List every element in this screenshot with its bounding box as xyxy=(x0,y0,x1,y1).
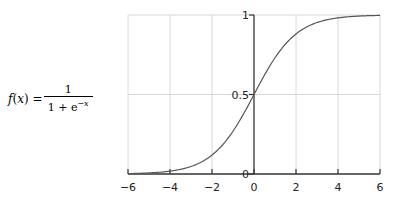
x-tick-label: −4 xyxy=(162,181,178,194)
y-tick-label: 0 xyxy=(242,168,249,181)
tick-labels: −6−4−2024600.51 xyxy=(120,9,384,194)
x-tick-label: 2 xyxy=(293,181,300,194)
x-tick-label: −6 xyxy=(120,181,136,194)
x-tick-label: 4 xyxy=(335,181,342,194)
y-tick-label: 1 xyxy=(242,9,249,22)
x-tick-label: −2 xyxy=(204,181,220,194)
sigmoid-chart: −6−4−2024600.51 xyxy=(0,0,394,205)
x-tick-label: 0 xyxy=(251,181,258,194)
y-tick-label: 0.5 xyxy=(232,89,250,102)
x-tick-label: 6 xyxy=(377,181,384,194)
